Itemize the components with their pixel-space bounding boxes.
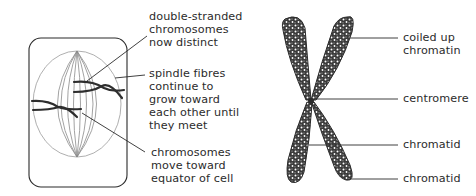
cell-illustration xyxy=(29,36,147,187)
label-line: chromosomes xyxy=(151,146,233,159)
label-spindle-fibres: spindle fibres continue to grow toward e… xyxy=(149,67,239,132)
label-line: spindle fibres xyxy=(149,67,239,80)
label-centromere: centromere xyxy=(403,92,469,105)
label-line: move toward xyxy=(151,159,233,172)
label-line: they meet xyxy=(149,119,239,132)
leader-lines xyxy=(309,38,398,179)
label-line: now distinct xyxy=(149,36,243,49)
label-double-stranded-chromosomes: double-stranded chromosomes now distinct xyxy=(149,10,243,49)
leader-lines xyxy=(82,36,147,152)
label-chromatid-upper: chromatid xyxy=(403,138,461,151)
label-line: centromere xyxy=(403,92,469,105)
label-line: chromatid xyxy=(403,138,461,151)
spindle-fibres xyxy=(33,51,121,157)
label-line: double-stranded xyxy=(149,10,243,23)
label-chromosomes-move: chromosomes move toward equator of cell xyxy=(151,146,233,185)
label-line: equator of cell xyxy=(151,172,233,185)
label-line: each other until xyxy=(149,106,239,119)
label-line: continue to xyxy=(149,80,239,93)
label-chromatid-lower: chromatid xyxy=(403,172,461,185)
label-coiled-up-chromatin: coiled up chromatin xyxy=(403,31,461,57)
centromere-point xyxy=(308,98,314,104)
chromosomes xyxy=(32,82,124,117)
chromosome-illustration xyxy=(282,17,398,183)
label-line: grow toward xyxy=(149,93,239,106)
label-line: chromatid xyxy=(403,172,461,185)
label-line: chromatin xyxy=(403,44,461,57)
label-line: chromosomes xyxy=(149,23,243,36)
label-line: coiled up xyxy=(403,31,461,44)
